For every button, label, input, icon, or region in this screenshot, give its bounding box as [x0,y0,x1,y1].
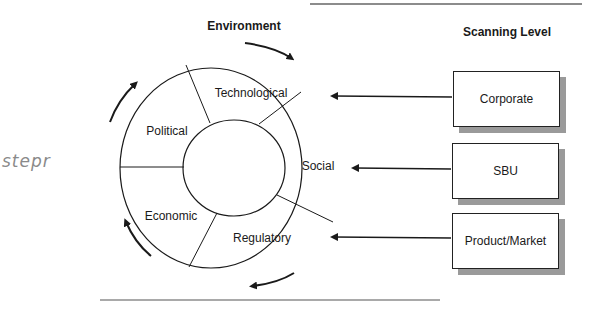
rotation-arrow-left [110,84,135,122]
arrow-corporate-to-technological [334,96,452,97]
level-box-sbu: SBU [452,143,559,199]
divider-tech-political [186,65,210,123]
inner-circle [183,120,285,216]
level-label-sbu: SBU [493,164,518,178]
environment-title: Environment [207,19,280,33]
segment-economic: Economic [145,209,198,223]
segment-technological: Technological [215,86,288,100]
segment-regulatory: Regulatory [233,231,291,245]
segment-political: Political [146,124,187,138]
divider-social-regulatory [277,195,333,222]
level-label-product-market: Product/Market [465,234,546,248]
level-box-corporate: Corporate [453,71,560,127]
handwritten-annotation: stepr [2,151,51,171]
arrow-sbu-to-social [355,168,451,169]
level-box-product-market: Product/Market [452,213,559,269]
arrow-product-market-to-regulatory [334,237,451,238]
rotation-arrow-bottom [253,273,294,286]
scanning-level-title: Scanning Level [463,25,551,39]
rotation-arrow-top [245,43,291,58]
segment-social: Social [302,159,335,173]
level-label-corporate: Corporate [480,92,533,106]
